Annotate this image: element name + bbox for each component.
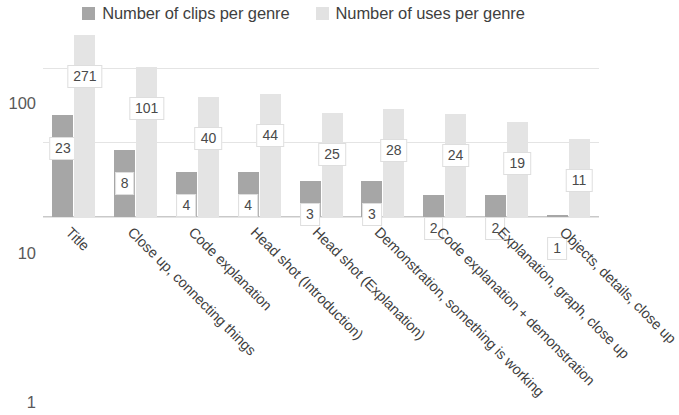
bar: 44 bbox=[260, 94, 281, 217]
bar-value-label: 4 bbox=[238, 194, 258, 217]
bar-group: 440 bbox=[167, 32, 229, 217]
legend-entry-clips: Number of clips per genre bbox=[82, 4, 289, 23]
bar: 4 bbox=[176, 172, 197, 217]
y-axis-tick-label: 10 bbox=[18, 243, 36, 262]
gridline: 1 bbox=[43, 217, 599, 218]
bar: 4 bbox=[238, 172, 259, 217]
bar: 2 bbox=[423, 195, 444, 217]
bar: 28 bbox=[383, 109, 404, 217]
x-axis-label-cell: Demonstration, something is working bbox=[352, 220, 414, 415]
plot-area: 110100 232718101440444325328224219111 bbox=[43, 32, 599, 217]
bar: 23 bbox=[52, 115, 73, 217]
bar: 40 bbox=[198, 97, 219, 217]
y-axis-tick-label: 1 bbox=[27, 393, 36, 412]
x-axis-label-cell: Objects, details, close up bbox=[537, 220, 599, 415]
bar-value-label: 44 bbox=[256, 124, 284, 147]
x-axis-tick-label: Title bbox=[63, 224, 93, 254]
x-axis-labels: TitleClose up, connecting thingsCode exp… bbox=[43, 220, 599, 415]
bar-value-label: 23 bbox=[49, 137, 77, 160]
bar-value-label: 101 bbox=[129, 97, 164, 120]
bar: 8 bbox=[114, 150, 135, 217]
bar-value-label: 19 bbox=[504, 152, 532, 175]
bar: 3 bbox=[300, 181, 321, 217]
legend-swatch-icon-uses bbox=[316, 7, 329, 20]
x-axis-label-cell: Head shot (Explanation) bbox=[290, 220, 352, 415]
bar: 11 bbox=[569, 139, 590, 217]
x-axis-label-cell: Explanation, graph, close up bbox=[475, 220, 537, 415]
bar-group: 219 bbox=[475, 32, 537, 217]
bar: 2 bbox=[485, 195, 506, 217]
y-axis-tick-label: 100 bbox=[8, 94, 36, 113]
bar-group: 444 bbox=[228, 32, 290, 217]
bar-value-label: 11 bbox=[566, 169, 593, 192]
bar-group: 23271 bbox=[43, 32, 105, 217]
legend-label-uses: Number of uses per genre bbox=[336, 4, 525, 23]
bar-value-label: 25 bbox=[318, 143, 346, 166]
bar-value-label: 271 bbox=[67, 65, 102, 88]
legend-label-clips: Number of clips per genre bbox=[102, 4, 289, 23]
bar-value-label: 28 bbox=[380, 139, 408, 162]
bar: 3 bbox=[361, 181, 382, 217]
bar-group: 224 bbox=[414, 32, 476, 217]
x-axis-tick-label: Objects, details, close up bbox=[557, 224, 679, 347]
x-axis-label-cell: Close up, connecting things bbox=[105, 220, 167, 415]
x-axis-label-cell: Head shot (Introduction) bbox=[228, 220, 290, 415]
bar-value-label: 8 bbox=[115, 172, 135, 195]
bar-value-label: 24 bbox=[442, 144, 470, 167]
legend-entry-uses: Number of uses per genre bbox=[316, 4, 525, 23]
bar-group: 328 bbox=[352, 32, 414, 217]
bar-group: 325 bbox=[290, 32, 352, 217]
bar: 25 bbox=[322, 113, 343, 217]
bar-groups: 232718101440444325328224219111 bbox=[43, 32, 599, 217]
x-axis-label-cell: Code explanation bbox=[167, 220, 229, 415]
x-axis-label-cell: Title bbox=[43, 220, 105, 415]
bar-group: 111 bbox=[537, 32, 599, 217]
bar-value-label: 40 bbox=[195, 127, 223, 150]
bar: 19 bbox=[507, 122, 528, 218]
bar-value-label: 4 bbox=[177, 194, 197, 217]
bar-group: 8101 bbox=[105, 32, 167, 217]
chart-legend: Number of clips per genre Number of uses… bbox=[0, 4, 607, 23]
bar: 101 bbox=[136, 67, 157, 217]
x-axis-tick-label-text: Objects, details, close up bbox=[557, 224, 679, 347]
bar: 1 bbox=[547, 215, 568, 217]
bar: 24 bbox=[445, 114, 466, 217]
x-axis-label-cell: Code explanation + demonstration bbox=[414, 220, 476, 415]
bar: 271 bbox=[74, 35, 95, 217]
legend-swatch-icon-clips bbox=[82, 7, 95, 20]
x-axis-tick-label-text: Title bbox=[63, 224, 93, 254]
